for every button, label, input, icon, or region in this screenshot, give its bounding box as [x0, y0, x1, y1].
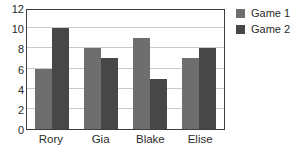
y-tick-label: 0: [0, 125, 24, 136]
bar: [150, 79, 167, 129]
x-tick-label: Gia: [81, 133, 121, 146]
bar: [133, 38, 150, 129]
y-tick-label: 8: [0, 44, 24, 55]
bar: [199, 48, 216, 129]
x-axis: RoryGiaBlakeElise: [26, 133, 225, 151]
bar-group: [35, 10, 69, 129]
y-tick-label: 4: [0, 84, 24, 95]
plot-area: [26, 9, 225, 130]
legend: Game 1Game 2: [236, 8, 290, 35]
legend-swatch-icon: [236, 9, 245, 18]
bar: [52, 28, 69, 129]
bar-chart: 024681012 RoryGiaBlakeElise Game 1Game 2: [0, 0, 305, 158]
bar: [84, 48, 101, 129]
bar: [101, 58, 118, 129]
legend-item: Game 1: [236, 8, 290, 19]
legend-swatch-icon: [236, 25, 245, 34]
y-tick-label: 2: [0, 104, 24, 115]
legend-label: Game 2: [251, 24, 290, 35]
bar-group: [182, 10, 216, 129]
legend-item: Game 2: [236, 24, 290, 35]
bar: [35, 69, 52, 130]
x-tick-label: Blake: [130, 133, 170, 146]
y-tick-label: 10: [0, 24, 24, 35]
legend-label: Game 1: [251, 8, 290, 19]
bars-layer: [27, 10, 224, 129]
y-axis: 024681012: [0, 0, 24, 158]
x-tick-label: Elise: [180, 133, 220, 146]
x-tick-label: Rory: [31, 133, 71, 146]
y-tick-label: 12: [0, 4, 24, 15]
bar-group: [133, 10, 167, 129]
bar: [182, 58, 199, 129]
y-tick-label: 6: [0, 64, 24, 75]
bar-group: [84, 10, 118, 129]
